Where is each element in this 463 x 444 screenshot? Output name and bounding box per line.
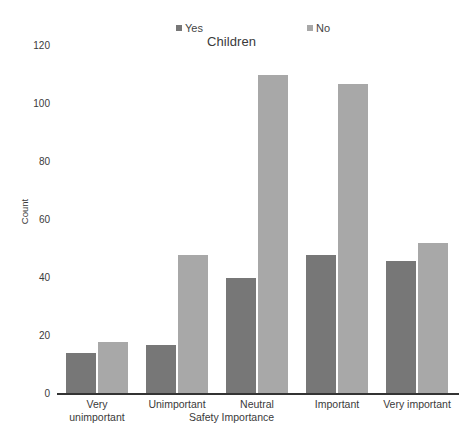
y-axis-tick-label: 60	[22, 215, 50, 225]
plot-area	[57, 46, 457, 394]
bar-no-0	[98, 342, 128, 394]
x-axis-title: Safety Importance	[0, 411, 463, 424]
bar-yes-3	[306, 255, 336, 394]
bar-yes-4	[386, 261, 416, 394]
x-axis-tick-label-line: Very important	[367, 398, 463, 411]
legend-item-yes: Yes	[176, 22, 203, 34]
x-axis-line	[57, 393, 459, 395]
y-axis-tick-label: 0	[22, 389, 50, 399]
y-axis-tick-label: 80	[22, 157, 50, 167]
bar-chart: Yes No Children Count 020406080100120 Ve…	[0, 0, 463, 444]
y-axis-tick-label: 120	[22, 41, 50, 51]
y-axis-tick-label: 40	[22, 273, 50, 283]
legend-label-yes: Yes	[185, 22, 203, 34]
bar-no-1	[178, 255, 208, 394]
bar-no-3	[338, 84, 368, 394]
bar-no-4	[418, 243, 448, 394]
y-axis-tick-label: 20	[22, 331, 50, 341]
legend-swatch-yes	[176, 25, 182, 31]
bar-no-2	[258, 75, 288, 394]
y-axis-ticks: 020406080100120	[22, 0, 50, 444]
bar-yes-0	[66, 353, 96, 394]
y-axis-tick-label: 100	[22, 99, 50, 109]
legend-label-no: No	[316, 22, 330, 34]
legend-item-no: No	[307, 22, 330, 34]
x-axis-tick-label: Very important	[367, 398, 463, 411]
bar-yes-1	[146, 345, 176, 394]
legend-swatch-no	[307, 25, 313, 31]
bar-yes-2	[226, 278, 256, 394]
